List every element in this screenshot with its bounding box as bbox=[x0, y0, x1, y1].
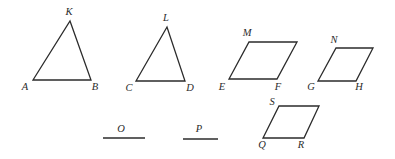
triangle-cdl: C D L bbox=[125, 12, 194, 93]
vertex-label-m: M bbox=[242, 27, 253, 38]
geometry-figure: A B K C D L E F M G H N S Q R O P bbox=[0, 0, 395, 159]
vertex-label-l: L bbox=[162, 12, 169, 23]
parallelogram-qrs: S Q R bbox=[258, 96, 319, 150]
vertex-label-r: R bbox=[297, 139, 305, 150]
segment-o: O bbox=[103, 123, 145, 138]
vertex-label-a: A bbox=[21, 81, 29, 92]
segment-p: P bbox=[183, 123, 218, 139]
vertex-label-n: N bbox=[329, 34, 338, 45]
triangle-abk-outline bbox=[33, 21, 91, 80]
vertex-label-f: F bbox=[274, 81, 282, 92]
parallelogram-ghn-outline bbox=[318, 48, 373, 81]
parallelogram-ghn: G H N bbox=[307, 34, 373, 92]
vertex-label-e: E bbox=[218, 81, 226, 92]
segment-label-p: P bbox=[195, 123, 203, 134]
vertex-label-q: Q bbox=[258, 139, 266, 150]
parallelogram-efm-outline bbox=[229, 42, 297, 79]
parallelogram-efm: E F M bbox=[218, 27, 297, 92]
triangle-abk: A B K bbox=[21, 6, 99, 92]
vertex-label-k: K bbox=[64, 6, 73, 17]
vertex-label-g: G bbox=[307, 81, 315, 92]
segment-label-o: O bbox=[117, 123, 125, 134]
vertex-label-b: B bbox=[92, 81, 99, 92]
parallelogram-qrs-outline bbox=[263, 106, 319, 138]
vertex-label-h: H bbox=[354, 81, 364, 92]
vertex-label-d: D bbox=[185, 82, 194, 93]
triangle-cdl-outline bbox=[136, 27, 185, 81]
vertex-label-c: C bbox=[125, 82, 133, 93]
vertex-label-s: S bbox=[269, 96, 275, 107]
